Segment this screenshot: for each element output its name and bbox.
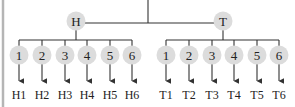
- outcome-label: T1: [159, 88, 172, 102]
- svg-text:4: 4: [84, 48, 91, 63]
- svg-text:3: 3: [209, 48, 216, 63]
- outcome-label: H3: [58, 88, 73, 102]
- outcome-label: H4: [80, 88, 95, 102]
- node-t-label: T: [219, 14, 227, 29]
- child-t-6: 6 T6: [270, 40, 289, 102]
- svg-text:5: 5: [254, 48, 261, 63]
- svg-text:2: 2: [186, 48, 193, 63]
- svg-text:2: 2: [39, 48, 46, 63]
- outcome-label: T6: [272, 88, 285, 102]
- child-t-5: 5 T5: [248, 40, 267, 102]
- outcome-label: T5: [250, 88, 263, 102]
- child-h-6: 6 H6: [123, 40, 142, 102]
- child-h-4: 4 H4: [78, 40, 97, 102]
- svg-text:6: 6: [129, 48, 136, 63]
- outcome-label: T3: [205, 88, 218, 102]
- svg-text:6: 6: [276, 48, 283, 63]
- svg-text:4: 4: [231, 48, 238, 63]
- child-t-4: 4 T4: [225, 40, 244, 102]
- outcome-label: H6: [125, 88, 140, 102]
- child-h-1: 1 H1: [10, 40, 29, 102]
- outcome-label: T4: [227, 88, 240, 102]
- outcome-label: H1: [12, 88, 27, 102]
- child-t-1: 1 T1: [157, 40, 176, 102]
- outcome-label: T2: [182, 88, 195, 102]
- child-h-2: 2 H2: [33, 40, 52, 102]
- node-h-label: H: [71, 14, 80, 29]
- svg-text:1: 1: [16, 48, 23, 63]
- child-t-2: 2 T2: [180, 40, 199, 102]
- child-h-5: 5 H5: [101, 40, 120, 102]
- branch-t: T 1 T1 2 T2 3 T3 4 T4: [157, 12, 289, 103]
- svg-text:3: 3: [62, 48, 69, 63]
- child-t-3: 3 T3: [203, 40, 222, 102]
- outcome-label: H2: [35, 88, 50, 102]
- branch-h: H 1 H1 2 H2 3 H3 4 H4: [10, 12, 142, 103]
- tree-diagram: H 1 H1 2 H2 3 H3 4 H4: [0, 0, 295, 107]
- svg-text:1: 1: [163, 48, 170, 63]
- child-h-3: 3 H3: [56, 40, 75, 102]
- svg-text:5: 5: [107, 48, 114, 63]
- outcome-label: H5: [103, 88, 118, 102]
